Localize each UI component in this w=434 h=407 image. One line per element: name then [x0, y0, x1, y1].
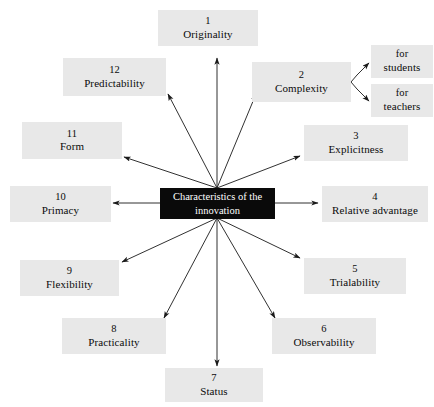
node-number: 10 — [55, 191, 66, 203]
arrow-to-node-3 — [217, 156, 300, 188]
node-label: Trialability — [330, 276, 380, 289]
node-number: 1 — [205, 15, 210, 27]
arrow-to-node-5 — [217, 218, 300, 258]
node-label: Form — [60, 140, 84, 153]
node-for-students[interactable]: for students — [371, 45, 433, 78]
node-label: Relative advantage — [332, 204, 418, 217]
node-number: 9 — [67, 265, 72, 277]
node-for-teachers[interactable]: for teachers — [371, 84, 433, 117]
sub-node-line2: students — [384, 61, 421, 74]
innovation-characteristics-diagram: 1 Originality 2 Complexity for students … — [0, 0, 434, 407]
node-number: 4 — [372, 191, 377, 203]
center-node-characteristics-of-the-innovation[interactable]: Characteristics of the innovation — [160, 188, 275, 219]
center-node-line1: Characteristics of the — [173, 191, 262, 202]
node-label: Observability — [293, 336, 354, 349]
center-node-line2: innovation — [195, 205, 240, 216]
node-number: 7 — [211, 372, 216, 384]
node-number: 8 — [111, 323, 116, 335]
arrow-to-node-9 — [122, 218, 217, 262]
sub-node-line2: teachers — [384, 100, 421, 113]
node-observability[interactable]: 6 Observability — [272, 318, 376, 354]
node-practicality[interactable]: 8 Practicality — [62, 318, 166, 354]
node-number: 12 — [109, 64, 120, 76]
sub-node-line1: for — [396, 48, 409, 61]
node-label: Originality — [183, 28, 232, 41]
node-relative-advantage[interactable]: 4 Relative advantage — [322, 186, 428, 222]
node-explicitness[interactable]: 3 Explicitness — [304, 125, 408, 161]
node-number: 5 — [352, 263, 357, 275]
sub-node-line1: for — [396, 87, 409, 100]
arrow-to-node-2 — [217, 94, 256, 188]
node-flexibility[interactable]: 9 Flexibility — [20, 260, 119, 296]
node-label: Explicitness — [329, 143, 384, 156]
node-label: Status — [200, 385, 228, 398]
node-number: 3 — [353, 130, 358, 142]
node-status[interactable]: 7 Status — [165, 368, 263, 402]
node-trialability[interactable]: 5 Trialability — [304, 258, 406, 294]
arrow-to-sub-teachers — [351, 82, 369, 101]
node-number: 6 — [321, 323, 326, 335]
node-label: Practicality — [88, 336, 139, 349]
node-number: 11 — [67, 128, 77, 140]
node-form[interactable]: 11 Form — [22, 122, 122, 159]
node-number: 2 — [299, 69, 304, 81]
node-originality[interactable]: 1 Originality — [158, 10, 258, 46]
arrow-to-sub-students — [351, 63, 369, 82]
center-node-label: Characteristics of the innovation — [167, 190, 268, 217]
node-primacy[interactable]: 10 Primacy — [10, 186, 111, 222]
node-complexity[interactable]: 2 Complexity — [252, 62, 351, 102]
arrow-to-node-6 — [217, 218, 275, 318]
node-label: Complexity — [275, 82, 328, 95]
node-label: Flexibility — [46, 278, 93, 291]
node-label: Predictability — [84, 77, 145, 90]
node-label: Primacy — [42, 204, 79, 217]
node-predictability[interactable]: 12 Predictability — [63, 58, 166, 96]
arrow-to-node-8 — [164, 218, 217, 318]
